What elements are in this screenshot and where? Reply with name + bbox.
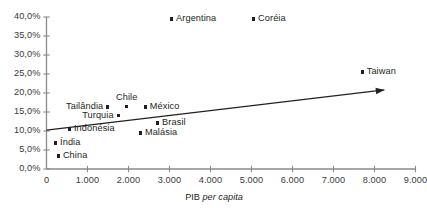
- data-point-label: México: [150, 101, 180, 111]
- x-axis-tick-label: 3.000: [158, 175, 182, 185]
- data-point-label: Taiwan: [367, 66, 396, 76]
- x-axis-tick-label: 5.000: [240, 175, 264, 185]
- x-axis-tick-label: 7.000: [322, 175, 346, 185]
- y-axis-tick-label: 20,0%: [14, 87, 41, 97]
- y-axis-tick-label: 0,0%: [19, 163, 40, 173]
- x-axis-title-italic: per capita: [203, 192, 243, 202]
- data-point-marker: [252, 17, 255, 20]
- data-point-label: Malásia: [145, 127, 177, 137]
- y-axis-tick-label: 5,0%: [19, 144, 40, 154]
- y-axis-tick-label: 15,0%: [14, 106, 41, 116]
- data-point-marker: [117, 114, 120, 117]
- data-point-label: Turquia: [82, 110, 114, 120]
- x-axis-title: PIB per capita: [185, 192, 243, 202]
- data-point-label: Chile: [116, 92, 137, 102]
- data-point-marker: [170, 17, 173, 20]
- data-point-label: Brasil: [162, 117, 186, 127]
- x-axis-tick-label: 0: [44, 175, 49, 185]
- x-axis-tick-label: 6.000: [281, 175, 305, 185]
- data-point-marker: [361, 70, 364, 73]
- y-axis-tick-label: 35,0%: [14, 30, 41, 40]
- y-axis-tick-label: 10,0%: [14, 125, 41, 135]
- x-axis-tick-label: 4.000: [199, 175, 223, 185]
- data-point-marker: [156, 121, 159, 124]
- x-axis-title-prefix: PIB: [185, 192, 202, 202]
- x-axis-tick-label: 9.000: [404, 175, 427, 185]
- data-point-label: China: [63, 150, 88, 160]
- data-point-marker: [139, 131, 142, 134]
- x-axis-tick-label: 1.000: [76, 175, 100, 185]
- data-point-label: Argentina: [176, 13, 216, 23]
- x-axis-tick-label: 8.000: [363, 175, 387, 185]
- trend-line-arrowhead: [376, 88, 385, 95]
- data-point-label: Índia: [60, 137, 80, 147]
- data-point-label: Indonésia: [74, 123, 115, 133]
- x-axis-tick-label: 2.000: [117, 175, 141, 185]
- data-point-marker: [57, 154, 60, 157]
- data-point-marker: [125, 105, 128, 108]
- y-axis-tick-label: 30,0%: [14, 49, 41, 59]
- y-axis-tick-label: 25,0%: [14, 68, 41, 78]
- data-point-marker: [68, 127, 71, 130]
- data-point-marker: [144, 105, 147, 108]
- data-point-marker: [106, 105, 109, 108]
- data-point-marker: [54, 141, 57, 144]
- y-axis-tick-label: 40,0%: [14, 11, 41, 21]
- data-point-label: Coréia: [258, 13, 286, 23]
